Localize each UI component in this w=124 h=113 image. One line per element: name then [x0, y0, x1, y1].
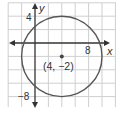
- y-axis: [32, 3, 38, 108]
- tick-label-x-8: 8: [85, 45, 91, 56]
- center-label: (4, −2): [43, 60, 74, 72]
- x-axis-label: x: [106, 45, 113, 57]
- tick-label-y-neg8: −8: [18, 91, 30, 102]
- y-axis-label: y: [38, 2, 46, 14]
- coordinate-graph: y x 4 8 −8 (4, −2): [0, 0, 124, 113]
- center-point: [60, 54, 64, 58]
- tick-label-y-4: 4: [26, 12, 32, 23]
